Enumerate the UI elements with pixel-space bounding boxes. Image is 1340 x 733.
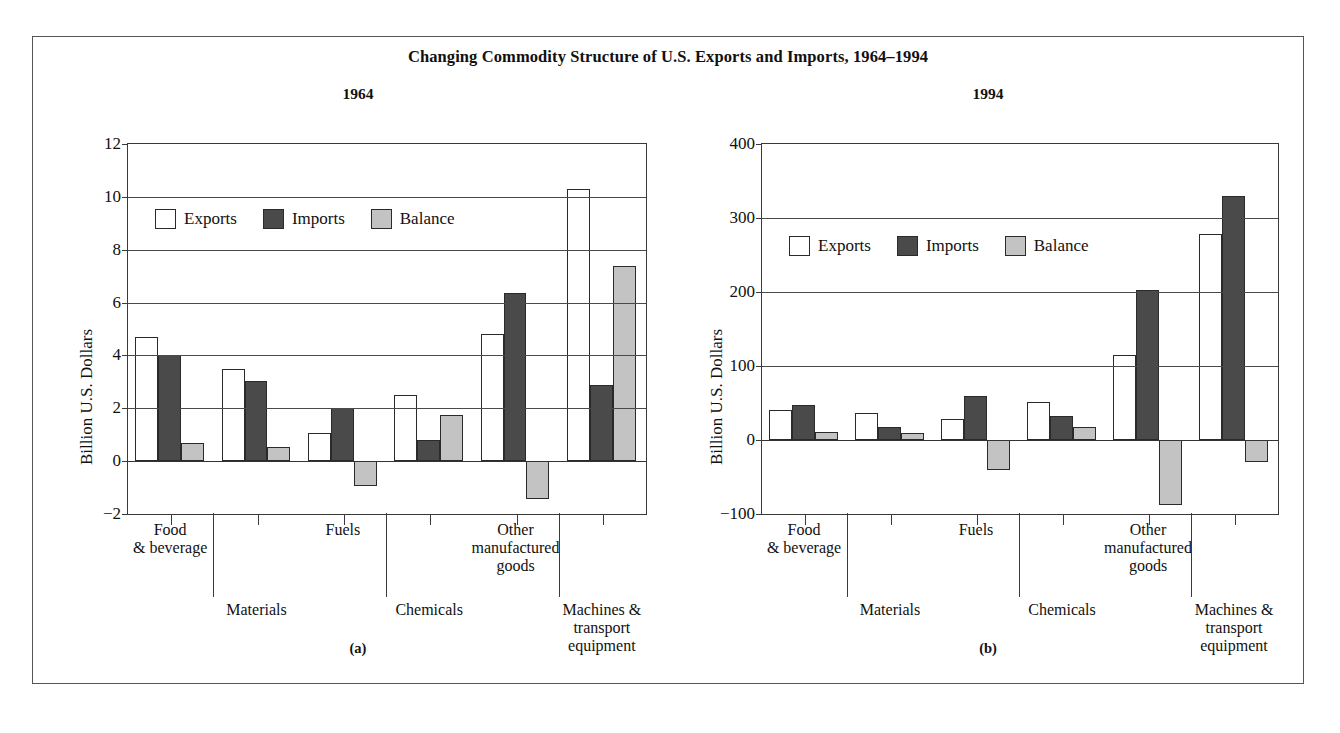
bar-balance [1159, 440, 1182, 505]
y-tick-label: 0 [747, 430, 756, 450]
bar-imports [590, 385, 613, 462]
bar-balance [901, 433, 924, 440]
y-tick-label: 300 [730, 208, 756, 228]
x-group-separator [1019, 513, 1020, 597]
bar-imports [417, 440, 440, 461]
gridline [762, 292, 1278, 293]
y-tick-mark [122, 514, 128, 515]
bar-balance [354, 461, 377, 486]
x-category-label-machines: Machines & transport equipment [1170, 601, 1299, 655]
legend-label-balance: Balance [1034, 236, 1089, 256]
x-tick-mark [891, 514, 892, 525]
legend-swatch-imports-icon [897, 236, 918, 256]
bar-exports [1027, 402, 1050, 440]
bar-imports [1136, 290, 1159, 440]
bar-imports [1222, 196, 1245, 440]
y-tick-label: 10 [104, 187, 121, 207]
legend-swatch-exports-icon [155, 209, 176, 229]
bar-exports [941, 419, 964, 440]
bar-balance [613, 266, 636, 462]
bars-layer-1964 [128, 144, 646, 514]
bar-exports [308, 433, 331, 461]
y-tick-mark [122, 144, 128, 145]
zero-line [762, 440, 1278, 441]
bars-layer-1994 [762, 144, 1278, 514]
y-tick-mark [122, 197, 128, 198]
bar-balance [1073, 427, 1096, 440]
legend-swatch-balance-icon [371, 209, 392, 229]
gridline [762, 218, 1278, 219]
y-tick-mark [756, 366, 762, 367]
legend-1994: Exports Imports Balance [789, 236, 1089, 256]
bar-exports [769, 410, 792, 440]
bar-balance [181, 443, 204, 462]
x-category-label-food: Food & beverage [105, 521, 235, 557]
y-tick-mark [122, 303, 128, 304]
x-category-label-materials: Materials [826, 601, 955, 619]
y-tick-label: 200 [730, 282, 756, 302]
x-group-separator [213, 513, 214, 597]
bar-exports [1113, 355, 1136, 440]
bar-exports [855, 413, 878, 440]
y-tick-mark [756, 292, 762, 293]
legend-label-balance: Balance [400, 209, 455, 229]
y-tick-label: 2 [113, 398, 122, 418]
y-tick-mark [122, 250, 128, 251]
bar-imports [504, 293, 527, 461]
x-category-label-other: Other manufactured goods [451, 521, 581, 575]
figure-title: Changing Commodity Structure of U.S. Exp… [33, 47, 1303, 67]
x-category-label-chemicals: Chemicals [364, 601, 494, 619]
panel-1964: 1964 Billion U.S. Dollars −2024681012 Ex… [43, 85, 673, 665]
y-tick-label: 4 [113, 345, 122, 365]
figure-frame: Changing Commodity Structure of U.S. Exp… [32, 36, 1304, 684]
x-tick-mark [1063, 514, 1064, 525]
x-category-label-other: Other manufactured goods [1084, 521, 1213, 575]
bar-imports [331, 408, 354, 461]
bar-exports [567, 189, 590, 461]
gridline [128, 355, 646, 356]
legend-item-imports: Imports [263, 209, 345, 229]
panel-title-1994: 1994 [681, 85, 1295, 103]
bar-balance [526, 461, 549, 499]
x-category-label-materials: Materials [192, 601, 322, 619]
zero-line [128, 461, 646, 462]
x-group-separator [386, 513, 387, 597]
bar-balance [987, 440, 1010, 470]
x-category-label-chemicals: Chemicals [998, 601, 1127, 619]
panel-title-1964: 1964 [43, 85, 673, 103]
x-category-label-fuels: Fuels [278, 521, 408, 539]
y-tick-mark [122, 408, 128, 409]
legend-item-imports: Imports [897, 236, 979, 256]
gridline [762, 366, 1278, 367]
bar-exports [1199, 234, 1222, 440]
gridline [128, 408, 646, 409]
legend-swatch-exports-icon [789, 236, 810, 256]
x-category-label-machines: Machines & transport equipment [537, 601, 667, 655]
y-tick-mark [756, 144, 762, 145]
y-tick-mark [756, 218, 762, 219]
plot-area-1994: −1000100200300400 [761, 143, 1279, 515]
bar-imports [964, 396, 987, 440]
bar-balance [267, 447, 290, 462]
y-tick-mark [122, 355, 128, 356]
x-tick-mark [430, 514, 431, 525]
legend-1964: Exports Imports Balance [155, 209, 455, 229]
legend-label-imports: Imports [292, 209, 345, 229]
y-tick-label: 100 [730, 356, 756, 376]
y-tick-label: 12 [104, 134, 121, 154]
y-tick-mark [122, 461, 128, 462]
gridline [128, 303, 646, 304]
bar-balance [1245, 440, 1268, 462]
y-tick-label: 8 [113, 240, 122, 260]
y-tick-label: 6 [113, 293, 122, 313]
y-tick-label: 400 [730, 134, 756, 154]
legend-item-exports: Exports [155, 209, 237, 229]
panel-1994: 1994 Billion U.S. Dollars −1000100200300… [681, 85, 1295, 665]
bar-imports [1050, 416, 1073, 440]
x-group-separator [559, 513, 560, 597]
y-tick-label: 0 [113, 451, 122, 471]
legend-label-imports: Imports [926, 236, 979, 256]
x-group-separator [847, 513, 848, 597]
bar-exports [481, 334, 504, 461]
bar-imports [245, 381, 268, 462]
